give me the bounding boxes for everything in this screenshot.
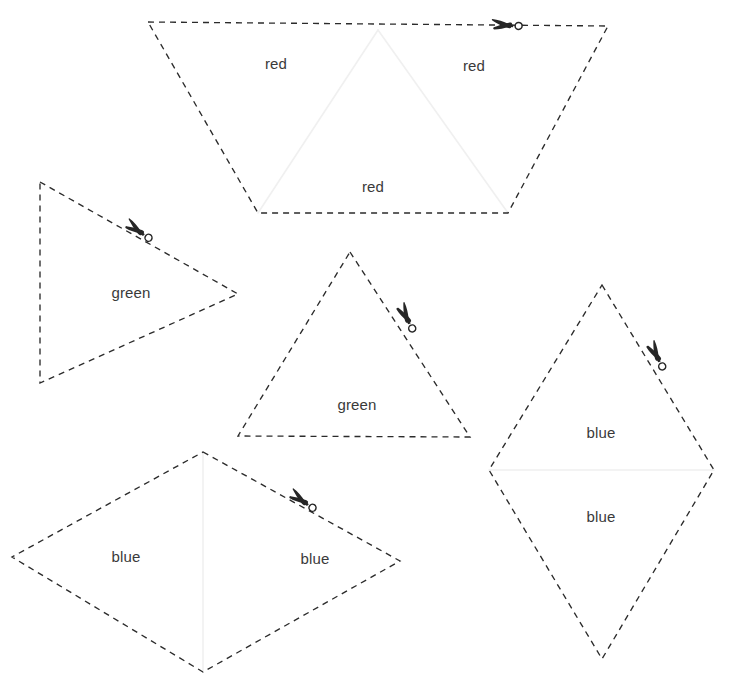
blue-rhombus-bottom-outline[interactable] (12, 452, 400, 672)
shape-group-green-triangle-left[interactable]: green (40, 182, 238, 383)
blue-label-bottom-right: blue (301, 550, 330, 567)
blue-label-bottom-left: blue (112, 548, 141, 565)
shape-group-blue-rhombus-right[interactable]: blue blue (489, 285, 714, 659)
red-label-left: red (265, 55, 287, 72)
worksheet-canvas: red red red green green b (0, 0, 733, 686)
green-triangle-left-outline[interactable] (40, 182, 238, 383)
red-label-right: red (463, 57, 485, 74)
shape-group-green-triangle-middle[interactable]: green (238, 252, 470, 437)
red-inner-right-edge (378, 30, 508, 213)
scissors-icon[interactable] (492, 19, 522, 30)
red-label-bottom: red (362, 178, 384, 195)
scissors-icon[interactable] (288, 488, 320, 512)
scissors-icon[interactable] (645, 340, 670, 371)
green-label-middle: green (337, 396, 376, 413)
blue-label-right-top: blue (587, 424, 616, 441)
shape-group-red-trapezoid[interactable]: red red red (148, 19, 608, 213)
blue-rhombus-right-outline[interactable] (489, 285, 714, 659)
shape-figure: red red red green green b (0, 0, 733, 686)
shape-group-blue-rhombus-bottom[interactable]: blue blue (12, 452, 400, 672)
blue-label-right-bottom: blue (587, 508, 616, 525)
green-label-left: green (111, 284, 150, 301)
